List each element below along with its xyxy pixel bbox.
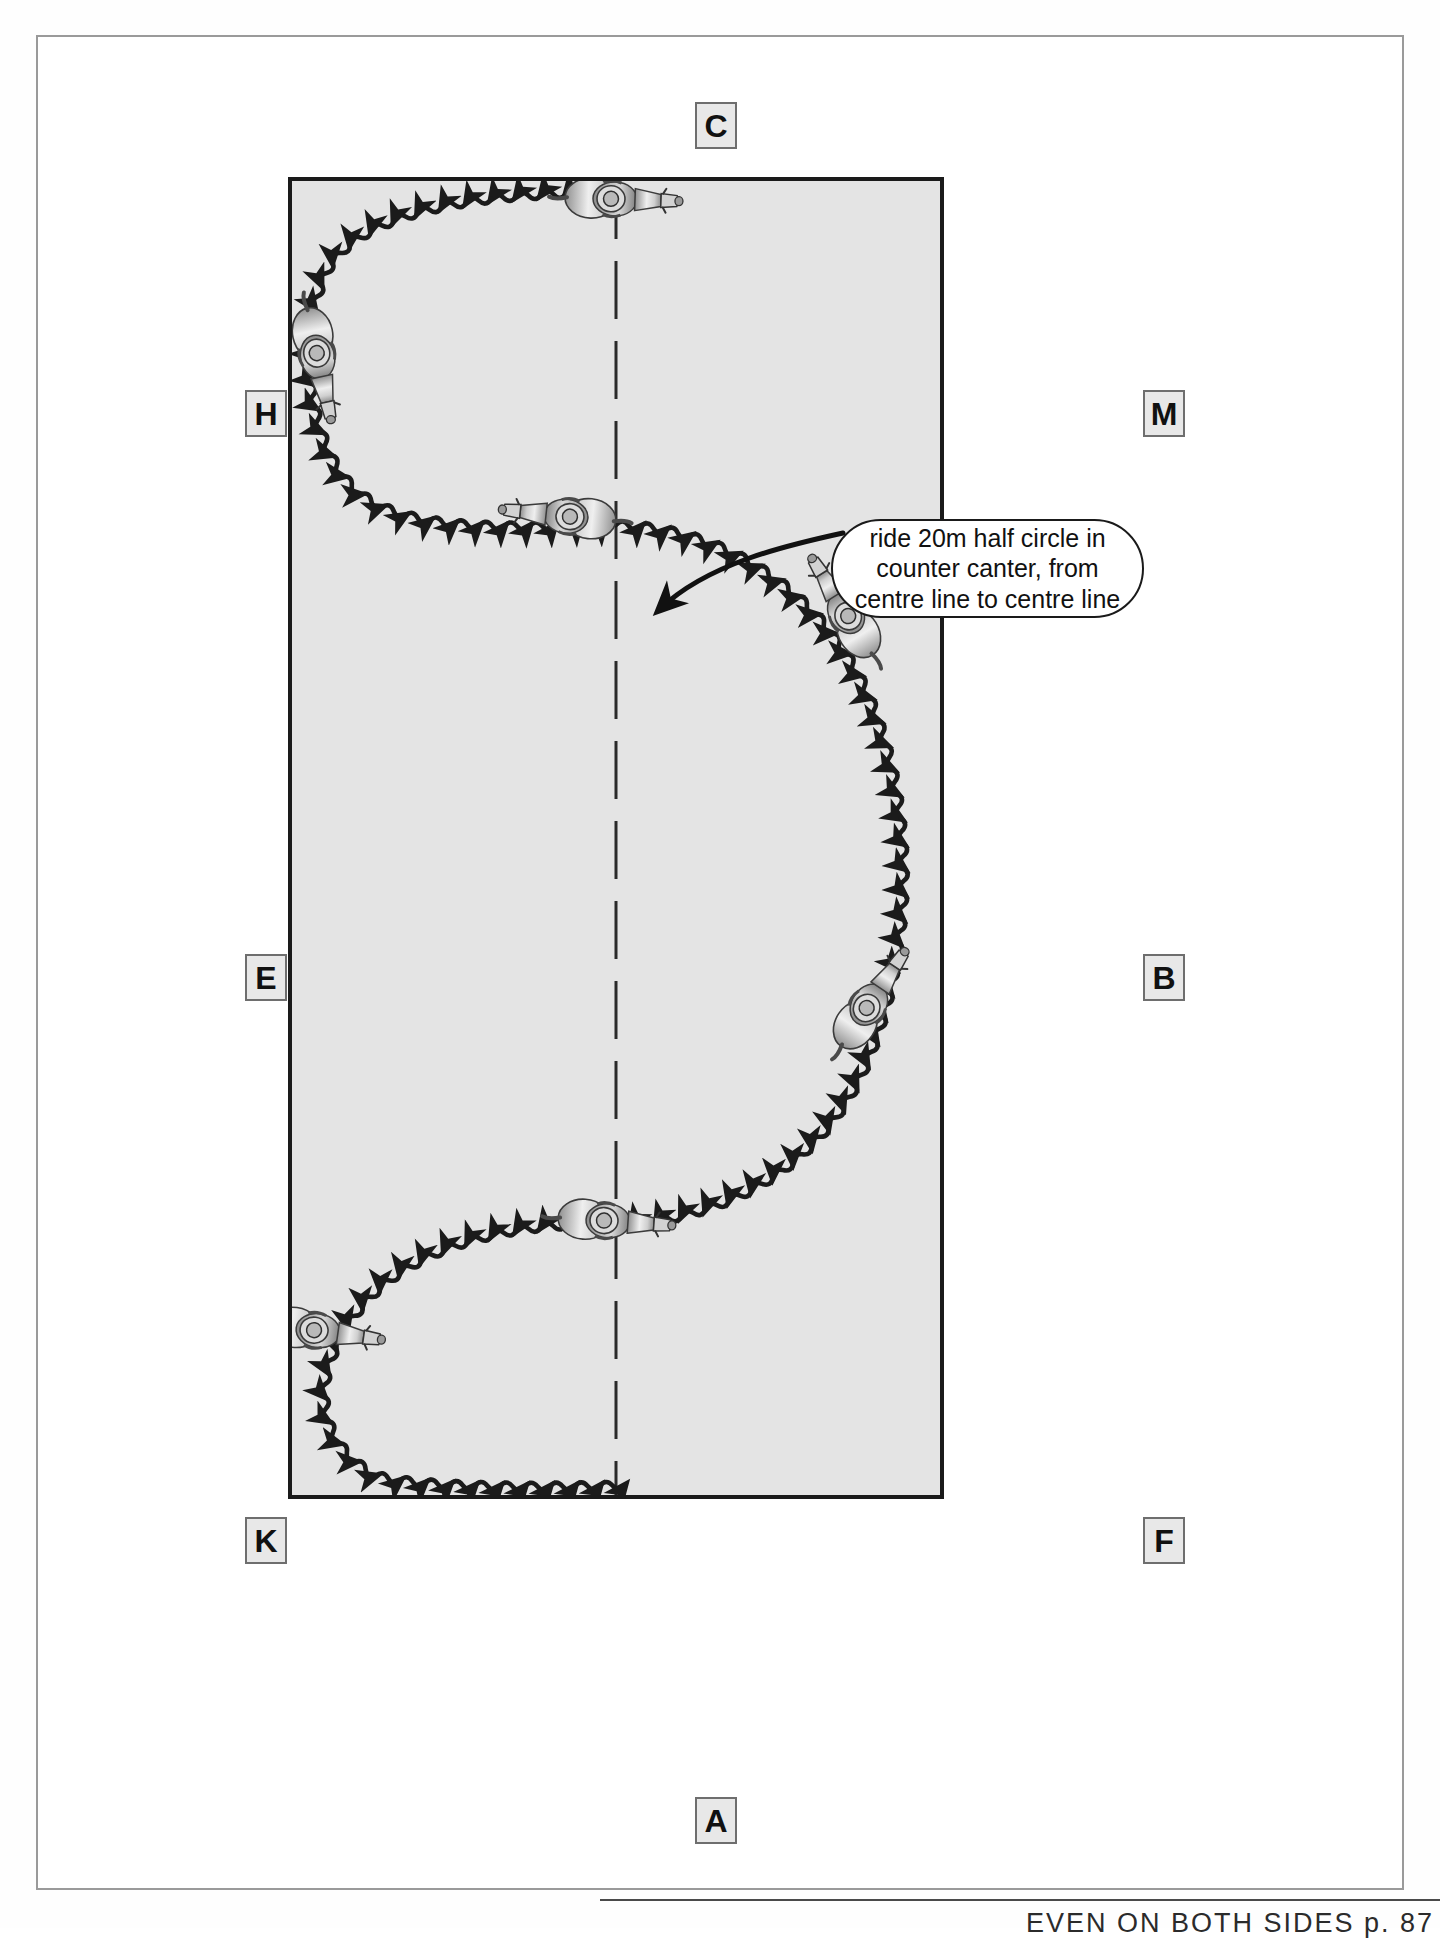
- track-wavelet: [369, 217, 395, 234]
- track-wavelet: [516, 1224, 542, 1235]
- marker-b[interactable]: B: [1143, 954, 1185, 1001]
- track-wavelet: [467, 1232, 493, 1246]
- callout-line-1: ride 20m half circle in: [869, 523, 1105, 554]
- track-wavelet: [320, 1396, 331, 1422]
- marker-label-b: B: [1152, 962, 1175, 994]
- marker-label-h: H: [254, 398, 277, 430]
- track-wavelet: [704, 1197, 730, 1213]
- track-wavelet: [899, 843, 907, 868]
- horse-and-rider: [292, 1302, 388, 1360]
- track-wavelet: [897, 818, 907, 844]
- footer-rule: [600, 1899, 1440, 1901]
- track-wavelet: [450, 1481, 475, 1490]
- track-wavelet: [550, 1482, 575, 1490]
- track-wavelet: [320, 1371, 331, 1397]
- marker-m[interactable]: M: [1143, 390, 1185, 437]
- track-wavelet: [856, 674, 873, 700]
- track-wavelet: [491, 1227, 517, 1239]
- track-wavelet: [575, 1482, 600, 1490]
- track-wavelet: [894, 793, 905, 819]
- track-wavelet: [417, 203, 443, 216]
- track-wavelet: [429, 517, 455, 528]
- track-wavelet: [505, 522, 530, 530]
- track-wavelet: [475, 1482, 500, 1490]
- marker-label-e: E: [255, 962, 276, 994]
- track-wavelet: [405, 512, 431, 525]
- page-frame: C H M E B K F A ride 20m half circle in …: [36, 35, 1404, 1890]
- horse-and-rider: [496, 489, 633, 543]
- track-wavelet: [866, 696, 882, 722]
- track-wavelet: [875, 720, 890, 746]
- marker-f[interactable]: F: [1143, 1517, 1185, 1564]
- marker-e[interactable]: E: [245, 954, 287, 1001]
- marker-label-k: K: [254, 1525, 277, 1557]
- marker-a[interactable]: A: [695, 1797, 737, 1844]
- track-wavelet: [689, 532, 715, 547]
- track-wavelet: [466, 195, 492, 206]
- track-wavelet: [883, 744, 896, 770]
- track-wavelet: [640, 523, 666, 534]
- track-wavelet: [896, 918, 906, 944]
- marker-k[interactable]: K: [245, 1517, 287, 1564]
- track-wavelet: [311, 283, 325, 309]
- track-wavelet: [393, 209, 419, 224]
- track-wavelet: [889, 768, 901, 794]
- horses-layer: [292, 181, 923, 1360]
- track-wavelet: [454, 520, 479, 529]
- marker-h[interactable]: H: [245, 390, 287, 437]
- track-wavelet: [425, 1479, 450, 1488]
- track-wavelet: [600, 1482, 625, 1490]
- marker-label-m: M: [1151, 398, 1178, 430]
- callout-line-3: centre line to centre line: [855, 584, 1120, 615]
- track-wavelet: [727, 1187, 753, 1204]
- arena-track-svg: [292, 181, 940, 1495]
- marker-label-a: A: [704, 1805, 727, 1837]
- track-wavelet: [525, 1483, 550, 1491]
- marker-c[interactable]: C: [695, 102, 737, 149]
- track-wavelet: [680, 1206, 706, 1220]
- track-wavelet: [480, 522, 505, 530]
- track-wavelet: [381, 503, 407, 518]
- ridden-track: [325, 193, 616, 521]
- callout-line-2: counter canter, from: [876, 553, 1098, 584]
- track-wavelet: [375, 1472, 401, 1484]
- marker-label-c: C: [704, 110, 727, 142]
- track-wavelet: [318, 430, 334, 456]
- track-wavelet: [665, 526, 691, 539]
- track-wavelet: [900, 868, 908, 893]
- footer-note: EVEN ON BOTH SIDES p. 87: [600, 1908, 1440, 1939]
- track-wavelet: [516, 191, 541, 200]
- track-wavelet: [324, 1347, 339, 1373]
- track-wavelet: [400, 1477, 426, 1487]
- wavy-canter-route: [306, 189, 907, 1490]
- track-wavelet: [441, 199, 467, 211]
- marker-label-f: F: [1154, 1525, 1174, 1557]
- exercise-instruction-callout[interactable]: ride 20m half circle in counter canter, …: [831, 519, 1144, 618]
- track-wavelet: [500, 1483, 525, 1491]
- track-wavelet: [898, 893, 907, 918]
- horse-and-rider: [292, 288, 351, 427]
- dressage-arena: [288, 177, 944, 1499]
- track-wavelet: [712, 541, 738, 558]
- track-wavelet: [853, 1062, 871, 1088]
- horse-and-rider: [548, 181, 683, 221]
- track-wavelet: [420, 1247, 446, 1264]
- track-wavelet: [443, 1238, 469, 1253]
- horse-and-rider: [541, 1196, 677, 1245]
- track-wavelet: [491, 193, 517, 203]
